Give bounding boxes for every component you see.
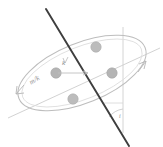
rotation-arrow-left-icon <box>16 85 24 94</box>
vector-tick-icon <box>63 57 68 63</box>
node-line <box>8 48 160 118</box>
figure-container: m/k k i <box>0 0 163 147</box>
particle-right <box>107 68 117 78</box>
particle-lower <box>68 94 78 104</box>
orbital-inclination-diagram <box>0 0 163 147</box>
particle-upper <box>91 42 101 52</box>
